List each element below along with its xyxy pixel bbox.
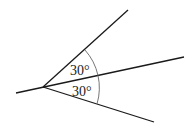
lower-angle-label: 30° [72,84,92,99]
lower-ray [43,87,154,122]
angle-diagram: 30° 30° [0,0,192,130]
bisecting-line [16,57,184,93]
upper-angle-label: 30° [70,63,90,78]
